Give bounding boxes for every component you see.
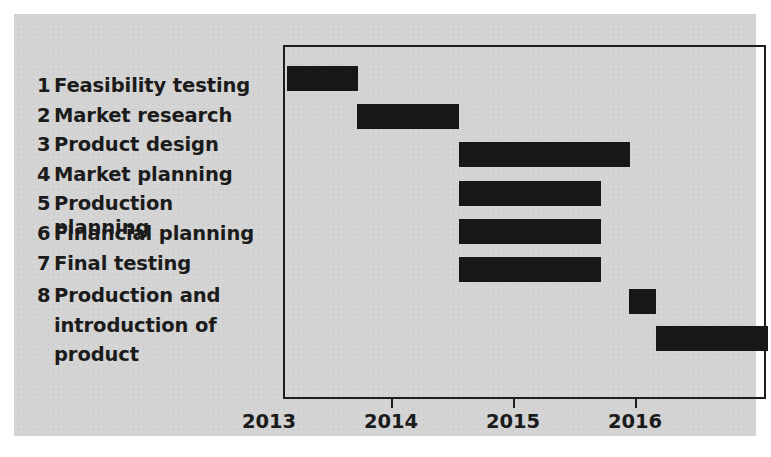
task-label-row: 6 Financial planning — [37, 222, 267, 252]
gantt-bar — [459, 219, 601, 244]
axis-tick — [391, 399, 393, 408]
task-number: 5 — [37, 192, 54, 216]
task-number: 7 — [37, 252, 54, 276]
task-label-row: 4 Market planning — [37, 163, 267, 193]
task-label-row: 5 Production planning — [37, 192, 267, 222]
gantt-bar — [459, 142, 630, 167]
task-number: 1 — [37, 74, 54, 98]
gantt-bars-area — [285, 47, 768, 401]
gantt-bar — [287, 66, 358, 91]
task-name: Feasibility testing — [54, 74, 267, 98]
task-name: Product design — [54, 133, 267, 157]
gantt-bar — [459, 257, 601, 282]
gantt-bar — [459, 181, 601, 206]
task-label-row: 8 Production and introduction of product — [37, 281, 267, 370]
task-number: 4 — [37, 163, 54, 187]
task-name: Production and introduction of product — [54, 281, 267, 370]
gantt-bar — [656, 326, 768, 351]
task-label-row: 3 Product design — [37, 133, 267, 163]
task-name: Market planning — [54, 163, 267, 187]
axis-year-label: 2015 — [473, 410, 553, 433]
task-number: 2 — [37, 104, 54, 128]
axis-year-label: 2013 — [229, 410, 309, 433]
task-label-list: 1 Feasibility testing 2 Market research … — [37, 74, 267, 370]
task-number: 6 — [37, 222, 54, 246]
axis-year-label: 2016 — [595, 410, 675, 433]
task-label-row: 7 Final testing — [37, 252, 267, 282]
axis-tick — [635, 399, 637, 408]
figure-panel: 1 Feasibility testing 2 Market research … — [14, 14, 756, 436]
task-name: Market research — [54, 104, 267, 128]
axis-tick — [513, 399, 515, 408]
task-name: Financial planning — [54, 222, 267, 246]
axis-year-label: 2014 — [351, 410, 431, 433]
gantt-plot-frame — [283, 45, 766, 399]
task-name: Final testing — [54, 252, 267, 276]
task-label-row: 1 Feasibility testing — [37, 74, 267, 104]
task-number: 8 — [37, 281, 54, 311]
task-label-row: 2 Market research — [37, 104, 267, 134]
task-number: 3 — [37, 133, 54, 157]
gantt-bar — [629, 289, 656, 314]
gantt-bar — [357, 104, 459, 129]
